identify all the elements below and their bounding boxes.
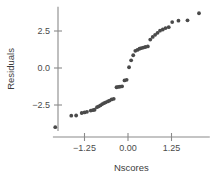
data-point	[53, 125, 57, 129]
x-axis-title: Nscores	[114, 162, 149, 173]
data-point	[120, 84, 124, 88]
data-point	[74, 114, 78, 118]
scatter-chart: −2.50.02.5−1.250.001.25NscoresResiduals	[0, 0, 210, 177]
data-point	[167, 25, 171, 29]
plot-area: −2.50.02.5−1.250.001.25NscoresResiduals	[5, 7, 210, 173]
y-axis-tick-label: −2.5	[32, 100, 50, 110]
data-point	[85, 110, 89, 114]
data-point	[112, 97, 116, 101]
y-axis-tick-label: 2.5	[37, 26, 50, 36]
data-point	[127, 65, 131, 69]
data-point	[131, 53, 135, 57]
data-point	[177, 19, 181, 23]
data-point	[146, 44, 150, 48]
data-point	[197, 11, 201, 15]
data-point	[170, 20, 174, 24]
y-axis-tick-label: 0.0	[37, 63, 50, 73]
data-point	[125, 78, 129, 82]
qq-plot-figure: −2.50.02.5−1.250.001.25NscoresResiduals	[0, 0, 210, 177]
x-axis-tick-label: 0.00	[119, 143, 137, 153]
y-axis-title: Residuals	[5, 48, 16, 90]
data-point	[69, 114, 73, 118]
data-point	[186, 18, 190, 22]
data-point	[129, 58, 133, 62]
x-axis-tick-label: 1.25	[163, 143, 181, 153]
x-axis-tick-label: −1.25	[73, 143, 96, 153]
